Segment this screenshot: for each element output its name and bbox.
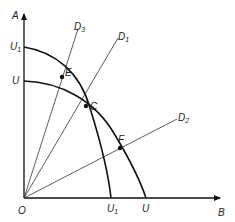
point-e [60,75,64,79]
label-u-horizontal: U [142,203,150,214]
diagram-canvas: A B O U1 U U1 U D3 D1 D2 E C F [0,0,235,222]
axis-label-a: A [11,10,19,21]
axis-label-b: B [218,207,225,218]
label-u1-horizontal: U1 [107,203,118,215]
label-u-vertical: U [12,75,20,86]
point-f [118,146,122,150]
label-c: C [90,101,98,112]
label-e: E [65,67,72,78]
label-u1-vertical: U1 [10,41,21,53]
label-d2: D2 [178,112,189,124]
origin-label: O [18,205,26,216]
label-d3: D3 [74,21,85,33]
point-c [84,104,88,108]
ray-d3 [24,29,78,198]
label-d1: D1 [118,31,129,43]
label-f: F [118,134,125,145]
